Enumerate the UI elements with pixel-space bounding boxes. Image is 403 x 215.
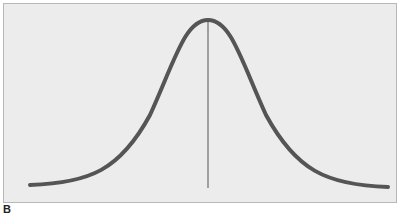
bell-curve — [30, 20, 388, 187]
bell-curve-diagram — [0, 0, 403, 215]
panel-label: B — [3, 203, 11, 215]
